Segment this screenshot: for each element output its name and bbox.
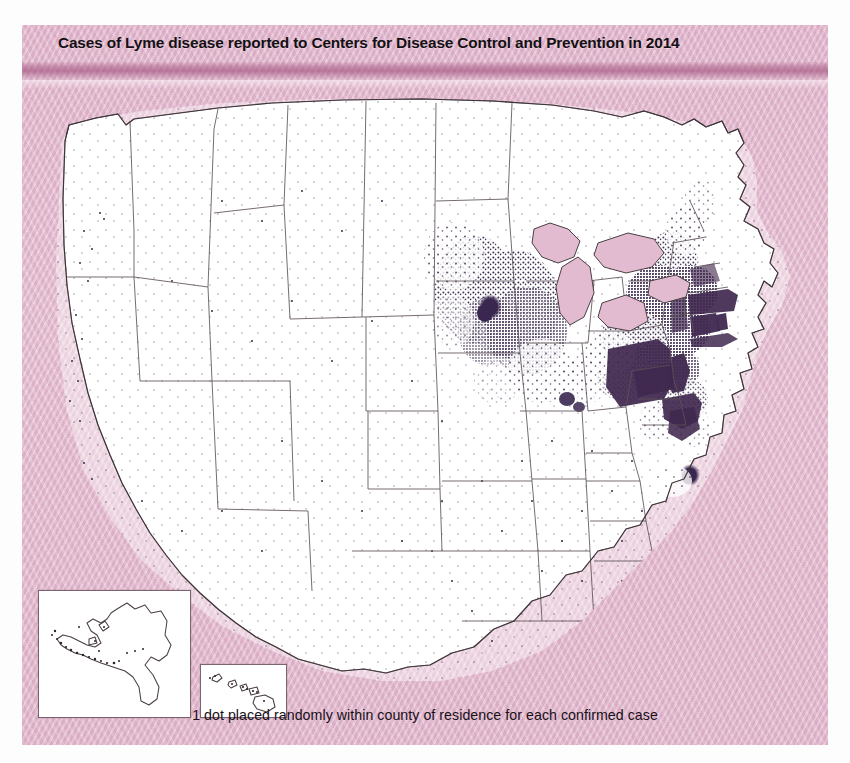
alaska-map xyxy=(39,591,190,717)
figure-caption: 1 dot placed randomly within county of r… xyxy=(22,707,828,723)
title-divider-stripe xyxy=(22,62,828,80)
alaska-inset xyxy=(38,590,191,718)
map-stage xyxy=(22,81,828,707)
title-band: Cases of Lyme disease reported to Center… xyxy=(22,25,828,81)
figure-panel: Cases of Lyme disease reported to Center… xyxy=(22,25,828,745)
figure-title: Cases of Lyme disease reported to Center… xyxy=(58,34,679,52)
page-canvas: Cases of Lyme disease reported to Center… xyxy=(0,0,850,763)
